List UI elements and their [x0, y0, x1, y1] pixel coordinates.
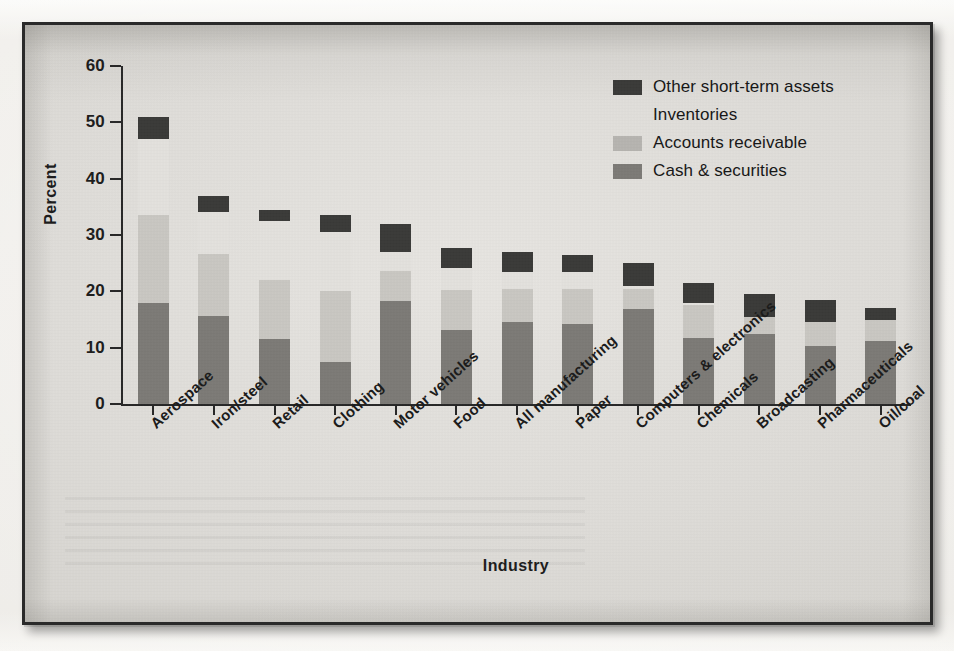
bar-segment-cash-securities — [138, 303, 169, 404]
legend-swatch-icon — [613, 136, 642, 151]
bar-group — [320, 215, 351, 404]
legend-swatch-icon — [613, 80, 642, 95]
bar-segment-cash-securities — [502, 322, 533, 404]
bar-segment-other-short-term-assets — [380, 224, 411, 252]
y-tick-mark — [110, 290, 121, 292]
bar-segment-accounts-receivable — [380, 271, 411, 302]
legend-swatch-icon — [613, 164, 642, 179]
bar-segment-accounts-receivable — [865, 320, 896, 341]
bar-segment-accounts-receivable — [562, 289, 593, 324]
bar-segment-accounts-receivable — [502, 289, 533, 323]
bar-segment-accounts-receivable — [805, 322, 836, 346]
legend-item: Inventories — [613, 101, 834, 129]
bar-segment-inventories — [138, 139, 169, 215]
y-axis-line — [121, 66, 123, 405]
bar-segment-cash-securities — [320, 362, 351, 404]
bar-segment-other-short-term-assets — [623, 263, 654, 286]
y-tick-label: 40 — [25, 170, 105, 187]
scanned-chart-page: 0102030405060 Percent Industry Aerospace… — [0, 0, 954, 651]
legend-item: Other short-term assets — [613, 73, 834, 101]
bar-segment-accounts-receivable — [138, 215, 169, 302]
bar-group — [259, 210, 290, 404]
bar-segment-other-short-term-assets — [198, 196, 229, 213]
y-tick-mark — [110, 178, 121, 180]
y-tick-label: 10 — [25, 339, 105, 356]
bar-segment-inventories — [502, 272, 533, 289]
bar-segment-other-short-term-assets — [502, 252, 533, 272]
legend-swatch-icon — [613, 108, 642, 123]
bar-segment-cash-securities — [259, 339, 290, 404]
y-tick-label: 30 — [25, 226, 105, 243]
scan-ghost-artifact — [65, 495, 585, 565]
bar-segment-inventories — [441, 268, 472, 291]
bar-segment-cash-securities — [623, 309, 654, 404]
bar-segment-inventories — [562, 272, 593, 289]
bar-segment-inventories — [259, 221, 290, 280]
bar-segment-other-short-term-assets — [259, 210, 290, 221]
bar-segment-accounts-receivable — [683, 305, 714, 337]
y-tick-mark — [110, 121, 121, 123]
x-axis-title: Industry — [121, 557, 911, 575]
legend-label: Other short-term assets — [653, 77, 834, 97]
bar-segment-inventories — [623, 286, 654, 289]
bar-segment-inventories — [683, 303, 714, 306]
chart-legend: Other short-term assetsInventoriesAccoun… — [613, 73, 834, 185]
bar-segment-other-short-term-assets — [865, 308, 896, 319]
bar-group — [138, 117, 169, 404]
bar-group — [502, 252, 533, 404]
legend-item: Cash & securities — [613, 157, 834, 185]
y-tick-mark — [110, 65, 121, 67]
y-tick-mark — [110, 234, 121, 236]
bar-segment-accounts-receivable — [623, 289, 654, 310]
bar-group — [380, 224, 411, 404]
y-tick-label: 0 — [25, 395, 105, 412]
bar-segment-other-short-term-assets — [320, 215, 351, 232]
legend-label: Inventories — [653, 105, 737, 125]
bar-segment-other-short-term-assets — [138, 117, 169, 139]
y-tick-label: 60 — [25, 57, 105, 74]
legend-label: Cash & securities — [653, 161, 787, 181]
bar-segment-inventories — [198, 212, 229, 253]
bar-segment-accounts-receivable — [198, 254, 229, 316]
y-tick-mark — [110, 403, 121, 405]
bar-segment-other-short-term-assets — [441, 248, 472, 268]
y-axis-title: Percent — [42, 124, 60, 264]
bar-segment-other-short-term-assets — [562, 255, 593, 272]
bar-segment-other-short-term-assets — [805, 300, 836, 323]
bar-group — [623, 263, 654, 404]
bar-segment-accounts-receivable — [441, 290, 472, 329]
bar-segment-accounts-receivable — [320, 291, 351, 361]
bar-segment-inventories — [320, 232, 351, 291]
y-tick-label: 20 — [25, 282, 105, 299]
bar-segment-accounts-receivable — [259, 280, 290, 339]
bar-segment-inventories — [380, 252, 411, 271]
y-tick-mark — [110, 347, 121, 349]
y-tick-label: 50 — [25, 113, 105, 130]
chart-plate: 0102030405060 Percent Industry Aerospace… — [22, 22, 933, 625]
legend-item: Accounts receivable — [613, 129, 834, 157]
legend-label: Accounts receivable — [653, 133, 807, 153]
bar-segment-other-short-term-assets — [683, 283, 714, 303]
